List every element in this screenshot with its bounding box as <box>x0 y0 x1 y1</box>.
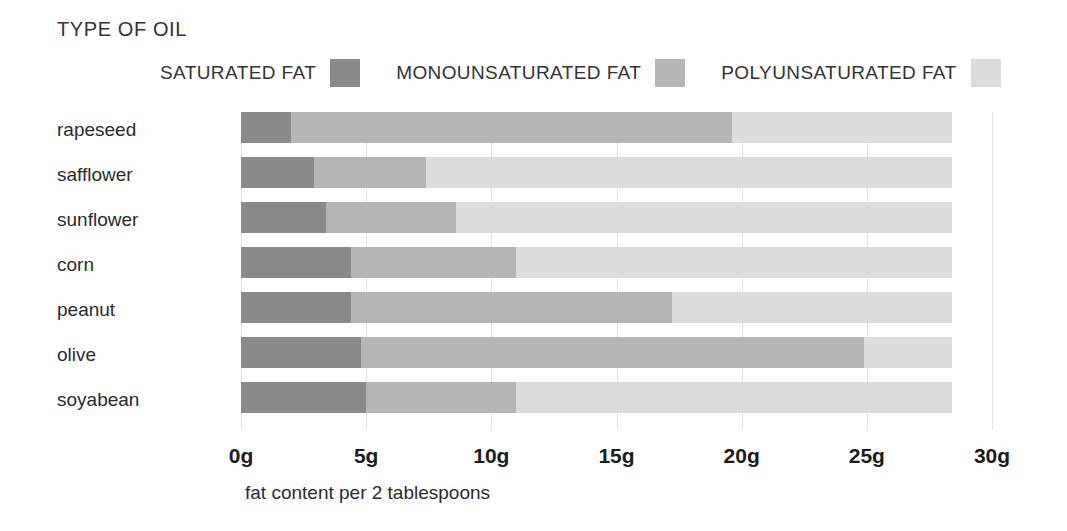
stacked-bar-sunflower <box>241 202 952 233</box>
legend-item-saturated: SATURATED FAT <box>160 59 360 87</box>
bar-segment <box>314 157 427 188</box>
stacked-bar-safflower <box>241 157 952 188</box>
bar-segment <box>241 382 366 413</box>
plot-area <box>241 112 992 430</box>
legend-swatch-polyunsaturated <box>971 59 1001 87</box>
y-axis-label-corn: corn <box>57 249 225 280</box>
bar-row <box>241 112 992 143</box>
bar-segment <box>241 202 326 233</box>
x-axis: 0g5g10g15g20g25g30g <box>241 434 992 474</box>
y-axis-label-sunflower: sunflower <box>57 204 225 235</box>
legend-item-polyunsaturated: POLYUNSATURATED FAT <box>721 59 1000 87</box>
gridline-30g <box>992 112 993 430</box>
y-axis-label-peanut: peanut <box>57 294 225 325</box>
chart-title: TYPE OF OIL <box>57 18 187 41</box>
bar-row <box>241 382 992 413</box>
stacked-bar-rapeseed <box>241 112 952 143</box>
bar-segment <box>864 337 952 368</box>
bar-segment <box>366 382 516 413</box>
chart-container: TYPE OF OIL SATURATED FAT MONOUNSATURATE… <box>0 0 1067 531</box>
bar-row <box>241 337 992 368</box>
bar-segment <box>672 292 952 323</box>
x-axis-tick-15g: 15g <box>598 434 634 468</box>
y-axis-label-rapeseed: rapeseed <box>57 114 225 145</box>
bar-row <box>241 292 992 323</box>
stacked-bar-soyabean <box>241 382 952 413</box>
x-axis-tick-10g: 10g <box>473 434 509 468</box>
bar-segment <box>241 247 351 278</box>
stacked-bar-corn <box>241 247 952 278</box>
bar-segment <box>426 157 952 188</box>
bar-segment <box>456 202 952 233</box>
stacked-bar-peanut <box>241 292 952 323</box>
bar-segment <box>732 112 952 143</box>
legend-swatch-monounsaturated <box>655 59 685 87</box>
bar-segment <box>241 337 361 368</box>
bar-segment <box>351 292 671 323</box>
x-axis-tick-20g: 20g <box>724 434 760 468</box>
legend-swatch-saturated <box>330 59 360 87</box>
bar-segment <box>241 157 314 188</box>
x-axis-tick-0g: 0g <box>229 434 254 468</box>
y-axis-label-soyabean: soyabean <box>57 384 225 415</box>
legend-item-monounsaturated: MONOUNSATURATED FAT <box>396 59 685 87</box>
legend-label-monounsaturated: MONOUNSATURATED FAT <box>396 62 641 84</box>
x-axis-tick-5g: 5g <box>354 434 379 468</box>
x-axis-caption: fat content per 2 tablespoons <box>245 482 490 504</box>
bar-segment <box>326 202 456 233</box>
chart-legend: SATURATED FAT MONOUNSATURATED FAT POLYUN… <box>160 58 1001 88</box>
bar-row <box>241 202 992 233</box>
bar-segment <box>291 112 732 143</box>
y-axis-label-safflower: safflower <box>57 159 225 190</box>
bar-row <box>241 157 992 188</box>
bar-rows <box>241 112 992 430</box>
y-axis-label-olive: olive <box>57 339 225 370</box>
legend-label-polyunsaturated: POLYUNSATURATED FAT <box>721 62 956 84</box>
x-axis-tick-30g: 30g <box>974 434 1010 468</box>
bar-segment <box>351 247 516 278</box>
bar-row <box>241 247 992 278</box>
y-axis-labels: rapeseedsafflowersunflowercornpeanutoliv… <box>0 112 225 430</box>
legend-label-saturated: SATURATED FAT <box>160 62 316 84</box>
bar-segment <box>361 337 864 368</box>
bar-segment <box>516 382 952 413</box>
x-axis-tick-25g: 25g <box>849 434 885 468</box>
bar-segment <box>241 112 291 143</box>
bar-segment <box>241 292 351 323</box>
bar-segment <box>516 247 952 278</box>
stacked-bar-olive <box>241 337 952 368</box>
